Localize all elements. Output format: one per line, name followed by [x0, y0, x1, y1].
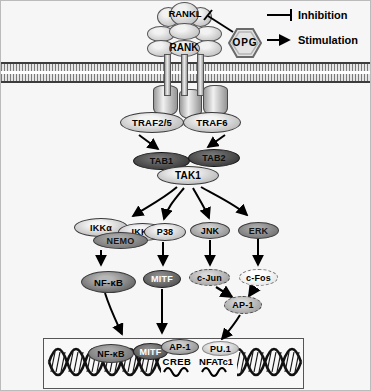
node-nemo: NEMO — [93, 232, 148, 249]
receptor-stalk — [181, 54, 188, 96]
nucleus-nfatc1-label: NFATc1 — [194, 356, 238, 367]
rankl-label: RANKL — [153, 8, 217, 19]
legend-inhibition-icon — [267, 9, 291, 21]
node-jnk: JNK — [190, 222, 230, 239]
node-ap1: AP-1 — [224, 296, 262, 314]
node-cfos: c-Fos — [239, 269, 278, 286]
node-erk: ERK — [238, 222, 279, 239]
node-p38: P38 — [144, 223, 186, 241]
arrow-cjun-ap1 — [216, 287, 232, 297]
arrow-traf6-tab2 — [208, 135, 225, 147]
node-mitf: MITF — [143, 270, 181, 288]
opg-label: OPG — [231, 37, 259, 48]
arrow-tak1-jnk — [193, 188, 209, 218]
arrow-tak1-ikk — [133, 187, 177, 216]
node-cjun: c-Jun — [189, 269, 230, 286]
arrow-tak1-p38 — [164, 188, 184, 219]
arrow-traf25-tab1 — [139, 135, 158, 149]
node-traf6: TRAF6 — [183, 112, 241, 133]
pathway-diagram: Inhibition Stimulation OPG RANKL RANK TR… — [0, 0, 371, 391]
nucleus-creb-label: CREB — [159, 356, 195, 367]
legend-inhibition-label: Inhibition — [298, 9, 347, 21]
arrow-tak1-erk — [201, 187, 247, 215]
receptor-stalk — [164, 54, 171, 96]
legend-stimulation-label: Stimulation — [298, 34, 358, 46]
node-nfkb: NF-κB — [81, 271, 136, 293]
nucleus-node-ap1: AP-1 — [161, 339, 199, 355]
node-tak1: TAK1 — [157, 166, 219, 185]
arrow-nfkb-nucleus — [105, 293, 122, 334]
nucleus-node-nfkb: NF-κB — [88, 344, 134, 363]
arrow-ap1-nucleus — [222, 315, 240, 339]
receptor-stalk — [197, 54, 204, 96]
arrow-cfos-ap1 — [249, 287, 255, 296]
nucleus-node-pu1: PU.1 — [202, 341, 239, 356]
rank-label: RANK — [155, 42, 213, 53]
node-traf25: TRAF2/5 — [120, 112, 184, 133]
node-tab2: TAB2 — [188, 149, 240, 167]
